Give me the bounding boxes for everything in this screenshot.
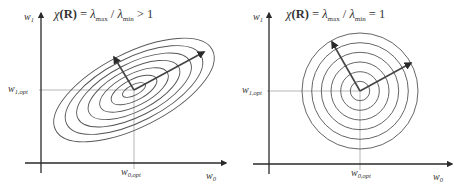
eigenvector-arrow-major xyxy=(360,63,411,91)
lambda-max-sub: max xyxy=(96,15,108,23)
matrix-R: (R) xyxy=(60,7,77,21)
w1-opt-sub: 1,opt xyxy=(15,88,28,95)
w0-opt-sub: 0,opt xyxy=(358,172,371,179)
w0-opt-label-left: w0,opt xyxy=(121,167,141,179)
w0-opt-label-right: w0,opt xyxy=(351,168,371,180)
w1-opt-base: w xyxy=(8,83,15,94)
relation: > 1 xyxy=(134,7,154,21)
lambda-min-sub: min xyxy=(123,15,134,23)
y-axis-label-right: w1 xyxy=(253,12,263,24)
y-axis-label-base: w xyxy=(24,11,31,22)
lambda-max-sub: max xyxy=(328,15,340,23)
elliptic-contour-panel xyxy=(25,13,229,173)
w1-opt-sub: 1,opt xyxy=(249,89,262,96)
x-axis-label-sub: 0 xyxy=(440,176,443,183)
divide: / xyxy=(108,7,118,21)
w0-opt-base: w xyxy=(121,166,128,177)
lambda-min-sub: min xyxy=(355,15,366,23)
x-axis-label-left: w0 xyxy=(206,171,216,183)
w1-opt-label-right: w1,opt xyxy=(242,85,262,97)
w1-opt-label-left: w1,opt xyxy=(8,84,28,96)
circular-contour-panel xyxy=(253,13,452,174)
divide: / xyxy=(340,7,350,21)
matrix-R: (R) xyxy=(292,7,309,21)
x-axis-label-base: w xyxy=(206,170,213,181)
y-axis-label-base: w xyxy=(253,11,260,22)
eigenvalue-spread-figure: w1 χ(R) = λmax / λmin > 1 w1,opt w0,opt … xyxy=(0,0,470,190)
equals: = xyxy=(309,7,322,21)
eigenvector-arrow-minor xyxy=(332,42,360,91)
y-axis-label-left: w1 xyxy=(24,12,34,24)
w0-opt-sub: 0,opt xyxy=(128,171,141,178)
y-axis-label-sub: 1 xyxy=(260,16,263,23)
condition-number-title-left: χ(R) = λmax / λmin > 1 xyxy=(54,8,153,23)
x-axis-label-base: w xyxy=(433,171,440,182)
x-axis-label-right: w0 xyxy=(433,172,443,184)
w1-opt-base: w xyxy=(242,84,249,95)
condition-number-title-right: χ(R) = λmax / λmin = 1 xyxy=(286,8,385,23)
relation: = 1 xyxy=(366,7,386,21)
eigenvector-arrow-major xyxy=(134,52,204,90)
contour-diagrams xyxy=(0,0,470,190)
equals: = xyxy=(77,7,90,21)
w0-opt-base: w xyxy=(351,167,358,178)
y-axis-label-sub: 1 xyxy=(31,16,34,23)
x-axis-label-sub: 0 xyxy=(213,175,216,182)
